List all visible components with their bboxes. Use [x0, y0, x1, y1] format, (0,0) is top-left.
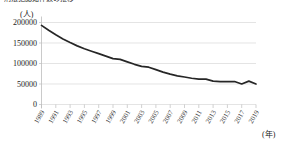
data-line-人数 [42, 25, 257, 84]
y-tick-labels: 050000100000150000200000 [13, 18, 37, 109]
x-tick-label: 2015 [218, 109, 232, 126]
x-tick-labels: 1989199119931995199719992001200320052007… [33, 109, 262, 126]
x-tick-label: 1995 [75, 109, 89, 126]
plot-area: 050000100000150000200000 198919911993199… [0, 0, 286, 163]
x-tick-marks [42, 105, 257, 109]
y-tick-label: 50000 [17, 80, 37, 89]
data-series [42, 25, 257, 84]
x-tick-label: 2017 [233, 109, 247, 126]
y-tick-label: 0 [33, 100, 37, 109]
x-tick-label: 2003 [133, 109, 147, 126]
x-tick-label: 1991 [47, 109, 61, 126]
x-tick-label: 2009 [176, 109, 190, 126]
x-tick-label: 2013 [204, 109, 218, 126]
x-tick-label: 2019 [247, 109, 261, 126]
gridlines [42, 23, 257, 105]
line-chart: 刑法犯認知件数の推移 (人) (年) 050000100000150000200… [0, 0, 286, 163]
x-tick-label: 2001 [118, 109, 132, 126]
x-tick-label: 2005 [147, 109, 161, 126]
y-tick-label: 150000 [13, 39, 37, 48]
y-tick-label: 100000 [13, 59, 37, 68]
x-tick-label: 1989 [33, 109, 47, 126]
x-tick-label: 2011 [190, 109, 204, 125]
x-tick-label: 2007 [161, 109, 175, 126]
x-tick-label: 1999 [104, 109, 118, 126]
x-tick-label: 1997 [90, 109, 104, 126]
y-tick-label: 200000 [13, 18, 37, 27]
x-tick-label: 1993 [61, 109, 75, 126]
